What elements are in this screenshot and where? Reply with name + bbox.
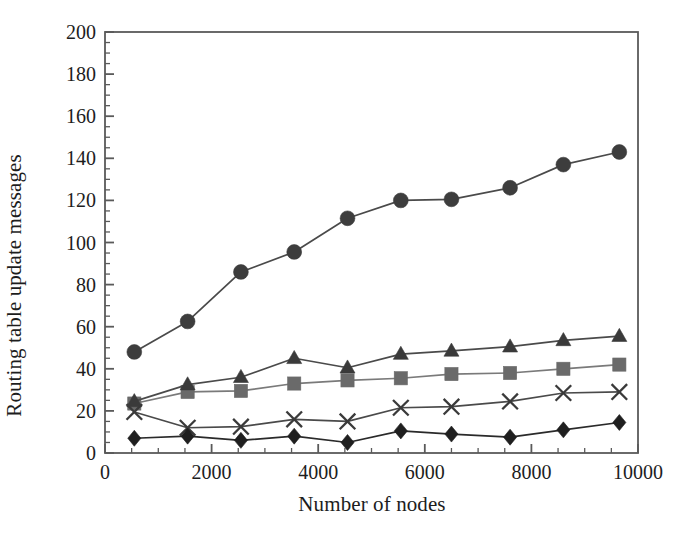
y-tick-label: 180 [66, 63, 96, 85]
marker-triangle [612, 328, 627, 341]
x-tick-label: 6000 [405, 461, 445, 483]
x-tick-label: 2000 [192, 461, 232, 483]
y-tick-label: 160 [66, 105, 96, 127]
marker-diamond [181, 428, 194, 444]
marker-square [234, 384, 247, 397]
marker-diamond [288, 428, 301, 444]
marker-square [341, 374, 354, 387]
y-tick-label: 0 [86, 442, 96, 464]
marker-circle [234, 265, 249, 280]
series-square [128, 358, 626, 410]
chart-figure: Routing table update messages Number of … [0, 0, 687, 535]
marker-triangle [444, 343, 459, 356]
series-circle-line [134, 152, 619, 352]
marker-square [288, 377, 301, 390]
marker-diamond [128, 430, 141, 446]
marker-triangle [393, 346, 408, 359]
marker-diamond [557, 422, 570, 438]
marker-circle [393, 193, 408, 208]
x-tick-label: 8000 [511, 461, 551, 483]
series-diamond [128, 414, 626, 450]
marker-square [557, 362, 570, 375]
series-cross-line [134, 392, 619, 428]
marker-square [394, 372, 407, 385]
marker-diamond [445, 426, 458, 442]
marker-circle [612, 145, 627, 160]
marker-diamond [613, 414, 626, 430]
marker-square [613, 358, 626, 371]
x-axis-title: Number of nodes [105, 492, 639, 517]
y-tick-label: 120 [66, 189, 96, 211]
series-diamond-line [134, 422, 619, 442]
data-series-layer [127, 145, 628, 451]
marker-circle [444, 192, 459, 207]
y-tick-label: 20 [76, 400, 96, 422]
marker-square [503, 366, 516, 379]
y-tick-label: 80 [76, 274, 96, 296]
y-tick-label: 40 [76, 358, 96, 380]
marker-square [445, 367, 458, 380]
marker-diamond [504, 429, 517, 445]
x-tick-label: 4000 [298, 461, 338, 483]
x-tick-label: 0 [100, 461, 110, 483]
marker-circle [340, 211, 355, 226]
series-circle [127, 145, 627, 360]
axis-tick-labels: 0204060801001201401601802000200040006000… [66, 21, 663, 483]
marker-triangle [556, 333, 571, 346]
marker-diamond [341, 434, 354, 450]
marker-diamond [234, 432, 247, 448]
marker-circle [503, 180, 518, 195]
y-tick-label: 100 [66, 232, 96, 254]
marker-circle [180, 314, 195, 329]
marker-diamond [394, 423, 407, 439]
y-tick-label: 200 [66, 21, 96, 43]
series-square-line [134, 365, 619, 404]
plot-area: 0204060801001201401601802000200040006000… [0, 0, 687, 535]
marker-circle [127, 345, 142, 360]
marker-circle [556, 157, 571, 172]
marker-circle [287, 245, 302, 260]
x-tick-label: 10000 [613, 461, 663, 483]
marker-triangle [287, 350, 302, 363]
y-tick-label: 60 [76, 316, 96, 338]
y-tick-label: 140 [66, 147, 96, 169]
